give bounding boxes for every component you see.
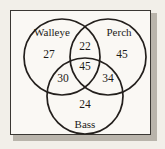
venn-canvas: Walleye Perch Bass 27 45 24 22 30 34 45 bbox=[0, 0, 165, 149]
count-walleye-perch: 22 bbox=[79, 40, 91, 52]
count-perch-only: 45 bbox=[116, 48, 128, 60]
set-label-perch: Perch bbox=[106, 26, 132, 38]
count-bass-only: 24 bbox=[79, 98, 91, 110]
set-label-walleye: Walleye bbox=[34, 26, 70, 38]
count-all-three: 45 bbox=[79, 60, 91, 72]
set-label-bass: Bass bbox=[75, 118, 96, 130]
count-walleye-only: 27 bbox=[43, 48, 55, 60]
count-perch-bass: 34 bbox=[102, 72, 114, 84]
venn-diagram-figure: Walleye Perch Bass 27 45 24 22 30 34 45 bbox=[0, 0, 165, 149]
count-walleye-bass: 30 bbox=[57, 72, 69, 84]
